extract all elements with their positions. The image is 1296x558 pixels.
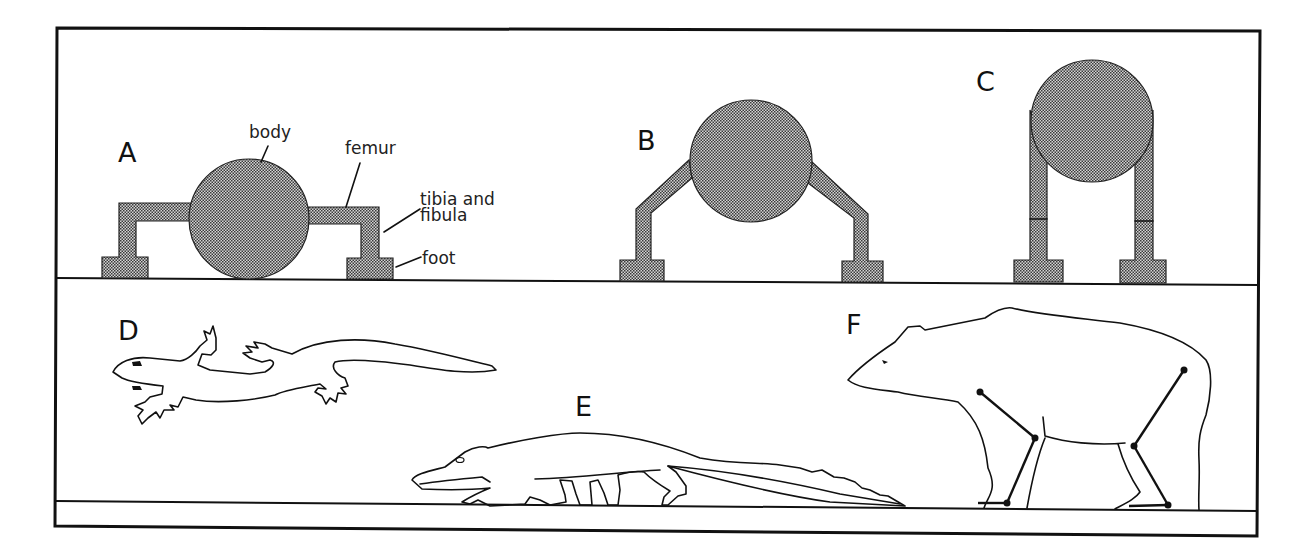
limb-right-a (308, 207, 393, 279)
panel-label-c: C (976, 66, 995, 97)
panel-label-d: D (118, 315, 139, 346)
leader-foot (396, 257, 421, 267)
limb-posture-figure: A body femur tibia and fibula foot B C (0, 0, 1296, 558)
bear-knee-joint (1131, 443, 1138, 450)
limb-right-b (808, 162, 883, 282)
panel-label-a: A (118, 137, 137, 168)
crocodile-jaw (420, 477, 490, 484)
annotation-foot: foot (422, 248, 456, 268)
bear-hip-joint (1181, 367, 1188, 374)
annotation-femur: femur (345, 138, 396, 158)
panel-e: E (412, 391, 905, 506)
bear-hind-tibia (1134, 446, 1168, 505)
bear-elbow-joint (1032, 435, 1039, 442)
bear-front-humerus (980, 392, 1035, 438)
crocodile-eye (456, 458, 464, 463)
body-circle-a (189, 159, 309, 279)
panel-a: A body femur tibia and fibula foot (102, 122, 495, 279)
crocodile-belly-line (535, 470, 660, 479)
leader-body (261, 146, 268, 162)
bear-outline (848, 308, 1211, 510)
ground-line-bottom (56, 501, 1258, 511)
bear-front-radius (1007, 438, 1035, 503)
bear-eye (882, 360, 888, 364)
salamander-outline (113, 326, 496, 424)
limb-left-b (620, 160, 692, 281)
leader-tibia (384, 209, 420, 232)
body-circle-b (690, 100, 812, 222)
leader-femur (346, 163, 360, 207)
bear-hind-foot (1129, 505, 1168, 506)
panel-d: D (113, 315, 496, 424)
crocodile-tail-line (668, 466, 900, 504)
bear-shoulder-joint (977, 389, 984, 396)
salamander-eye-bottom (132, 386, 142, 390)
bear-ankle-joint (1165, 502, 1172, 509)
panel-label-e: E (575, 391, 592, 422)
bear-hind-femur (1134, 370, 1184, 446)
salamander-eye-top (132, 361, 142, 366)
annotation-fibula: fibula (420, 205, 467, 225)
panel-c: C (976, 60, 1166, 283)
limb-left-a (102, 203, 191, 278)
annotation-body: body (249, 122, 291, 142)
panel-b: B (620, 100, 883, 282)
panel-label-b: B (637, 125, 656, 156)
panel-f: F (846, 308, 1211, 510)
body-circle-c (1031, 60, 1153, 182)
bear-wrist-joint (1004, 500, 1011, 507)
panel-label-f: F (846, 309, 862, 340)
